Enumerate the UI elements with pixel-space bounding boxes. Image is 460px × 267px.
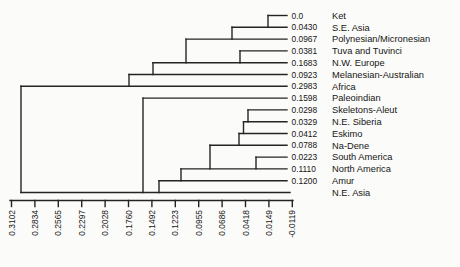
leaf-label: Eskimo bbox=[332, 129, 362, 139]
leaf-label: Polynesian/Micronesian bbox=[332, 34, 430, 44]
leaf-value: 0.0298 bbox=[292, 105, 318, 115]
leaf-value: 0.0923 bbox=[292, 70, 318, 80]
leaf-value: 0.0223 bbox=[292, 152, 318, 162]
leaf-label: N.E. Asia bbox=[332, 188, 371, 198]
leaf-label: Africa bbox=[332, 82, 357, 92]
leaf-value: 0.1683 bbox=[292, 58, 318, 68]
leaf-value: 0.2983 bbox=[292, 81, 318, 91]
leaf-value: 0.0412 bbox=[292, 129, 318, 139]
leaf-label: North America bbox=[332, 164, 392, 174]
axis-tick-label: 0.2028 bbox=[100, 210, 110, 236]
leaf-label: Paleoindian bbox=[332, 93, 381, 103]
axis-tick-label: 0.2297 bbox=[77, 210, 87, 236]
leaf-label: Melanesian-Australian bbox=[332, 70, 424, 80]
axis-tick-label: 0.1223 bbox=[170, 210, 180, 236]
leaf-value: 0.0381 bbox=[292, 46, 318, 56]
leaf-value: 0.0967 bbox=[292, 34, 318, 44]
dendrogram-figure: 0.0Ket0.0430S.E. Asia0.0967Polynesian/Mi… bbox=[0, 0, 460, 267]
leaf-value: 0.1598 bbox=[292, 93, 318, 103]
axis-tick-label: 0.2834 bbox=[30, 210, 40, 236]
leaf-value: 0.0 bbox=[292, 11, 304, 21]
axis-tick-label: 0.0955 bbox=[194, 210, 204, 236]
leaf-label: Skeletons-Aleut bbox=[332, 105, 398, 115]
dendrogram-svg: 0.0Ket0.0430S.E. Asia0.0967Polynesian/Mi… bbox=[0, 0, 460, 267]
leaf-label: N.E. Siberia bbox=[332, 117, 382, 127]
leaf-label: S.E. Asia bbox=[332, 23, 371, 33]
leaf-label: Tuva and Tuvinci bbox=[332, 46, 402, 56]
axis-tick-label: 0.3102 bbox=[7, 210, 17, 236]
leaf-value: 0.0788 bbox=[292, 140, 318, 150]
axis-tick-label: 0.0418 bbox=[241, 210, 251, 236]
leaf-value: 0.1110 bbox=[292, 164, 317, 174]
axis-tick-label: 0.1492 bbox=[147, 210, 157, 236]
leaf-label: South America bbox=[332, 152, 393, 162]
leaf-value: 0.0329 bbox=[292, 117, 318, 127]
leaf-label: Ket bbox=[332, 11, 346, 21]
axis-tick-label: -0.0119 bbox=[287, 210, 297, 238]
leaf-value: 0.1200 bbox=[292, 176, 318, 186]
leaf-label: N.W. Europe bbox=[332, 58, 385, 68]
axis-tick-label: 0.0686 bbox=[217, 210, 227, 236]
leaf-value: 0.0430 bbox=[292, 22, 318, 32]
axis-tick-label: 0.0149 bbox=[264, 210, 274, 236]
axis-tick-label: 0.2565 bbox=[53, 210, 63, 236]
axis-tick-label: 0.1760 bbox=[124, 210, 134, 236]
leaf-label: Amur bbox=[332, 176, 354, 186]
leaf-label: Na-Dene bbox=[332, 141, 369, 151]
